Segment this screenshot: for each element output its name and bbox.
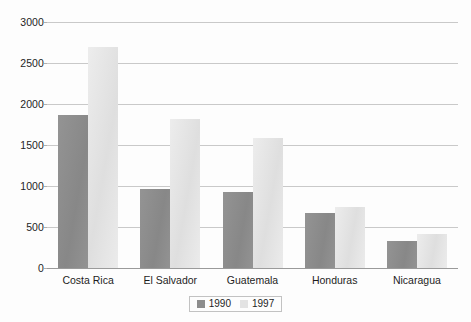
y-tick-label: 2000	[2, 99, 44, 110]
bar-group	[58, 22, 118, 268]
gridline-0	[47, 268, 458, 269]
bar-group	[140, 22, 200, 268]
bar-group	[305, 22, 365, 268]
y-tick-label: 1500	[2, 140, 44, 151]
x-axis-label-honduras: Honduras	[294, 274, 376, 287]
y-tick-label: 1000	[2, 181, 44, 192]
x-axis-label-nicaragua: Nicaragua	[376, 274, 458, 287]
legend-item-1990: 1990	[197, 298, 231, 309]
bar-honduras-1990	[305, 213, 335, 268]
bar-chart: 300025002000150010005000 Costa RicaEl Sa…	[0, 0, 471, 322]
legend-label: 1997	[252, 298, 274, 309]
bar-el-salvador-1990	[140, 189, 170, 268]
x-axis-label-guatemala: Guatemala	[211, 274, 293, 287]
y-tick-label: 500	[2, 222, 44, 233]
bar-el-salvador-1997	[170, 119, 200, 268]
bar-guatemala-1997	[253, 138, 283, 268]
x-axis-labels: Costa RicaEl SalvadorGuatemalaHondurasNi…	[47, 274, 458, 290]
bar-group	[223, 22, 283, 268]
y-tick-label: 0	[2, 263, 44, 274]
bar-costa-rica-1997	[88, 47, 118, 268]
legend: 19901997	[0, 296, 471, 312]
legend-item-1997: 1997	[240, 298, 274, 309]
bars-layer	[47, 22, 458, 268]
y-axis: 300025002000150010005000	[0, 22, 44, 268]
legend-box: 19901997	[189, 296, 283, 312]
x-axis-label-costa-rica: Costa Rica	[47, 274, 129, 287]
y-tick-label: 2500	[2, 58, 44, 69]
legend-swatch-icon-1997	[240, 300, 248, 308]
legend-label: 1990	[209, 298, 231, 309]
legend-swatch-icon-1990	[197, 300, 205, 308]
bar-guatemala-1990	[223, 192, 253, 268]
bar-group	[387, 22, 447, 268]
bar-nicaragua-1990	[387, 241, 417, 268]
x-axis-label-el-salvador: El Salvador	[129, 274, 211, 287]
bar-costa-rica-1990	[58, 115, 88, 268]
y-tick-label: 3000	[2, 17, 44, 28]
bar-nicaragua-1997	[417, 234, 447, 268]
bar-honduras-1997	[335, 207, 365, 269]
